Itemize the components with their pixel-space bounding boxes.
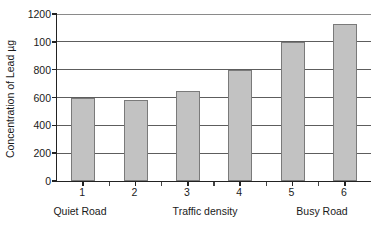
- bar: [228, 70, 252, 181]
- x-caption-quiet-road: Quiet Road: [30, 205, 130, 217]
- bar: [333, 24, 357, 181]
- x-axis-tick-label: 2: [120, 186, 150, 198]
- plot-area: [56, 14, 371, 182]
- y-axis-title: Concentration of Lead µg: [2, 8, 18, 190]
- bar: [71, 98, 95, 182]
- x-caption-busy-road: Busy Road: [272, 205, 372, 217]
- x-axis-tick-label: 3: [172, 186, 202, 198]
- gridline: [57, 69, 371, 70]
- y-axis-tick-label: 0: [18, 176, 51, 186]
- gridline: [57, 41, 371, 42]
- bar: [281, 42, 305, 181]
- x-axis-tick-label: 1: [67, 186, 97, 198]
- plot-top-border: [57, 14, 371, 15]
- x-axis-minor-tick: [109, 182, 110, 186]
- x-axis-tick-label: 4: [224, 186, 254, 198]
- y-axis-tick-label: 400: [18, 120, 51, 130]
- y-axis-tick: [52, 97, 57, 98]
- y-axis-tick: [52, 125, 57, 126]
- x-axis-minor-tick: [266, 182, 267, 186]
- x-axis-minor-tick: [213, 182, 214, 186]
- gridline: [57, 97, 371, 98]
- bar: [124, 100, 148, 181]
- y-axis-tick: [52, 41, 57, 42]
- gridline: [57, 153, 371, 154]
- y-axis-tick-label: 800: [18, 65, 51, 75]
- y-axis-tick-label: 100: [18, 37, 51, 47]
- gridline: [57, 125, 371, 126]
- x-axis-minor-tick: [161, 182, 162, 186]
- y-axis-tick: [52, 13, 57, 14]
- bar-chart: Concentration of Lead µg 020040060080010…: [0, 0, 379, 225]
- y-axis-tick-label: 600: [18, 93, 51, 103]
- y-axis-tick: [52, 180, 57, 181]
- y-axis-tick: [52, 69, 57, 70]
- y-axis-tick-labels: 02004006008001001200: [18, 0, 51, 225]
- x-axis-tick-label: 6: [329, 186, 359, 198]
- y-axis-tick-label: 200: [18, 148, 51, 158]
- x-axis-tick-label: 5: [277, 186, 307, 198]
- y-axis-tick: [52, 152, 57, 153]
- x-axis-minor-tick: [318, 182, 319, 186]
- y-axis-tick-label: 1200: [18, 9, 51, 19]
- bar: [176, 91, 200, 181]
- x-caption-traffic-density: Traffic density: [155, 205, 255, 217]
